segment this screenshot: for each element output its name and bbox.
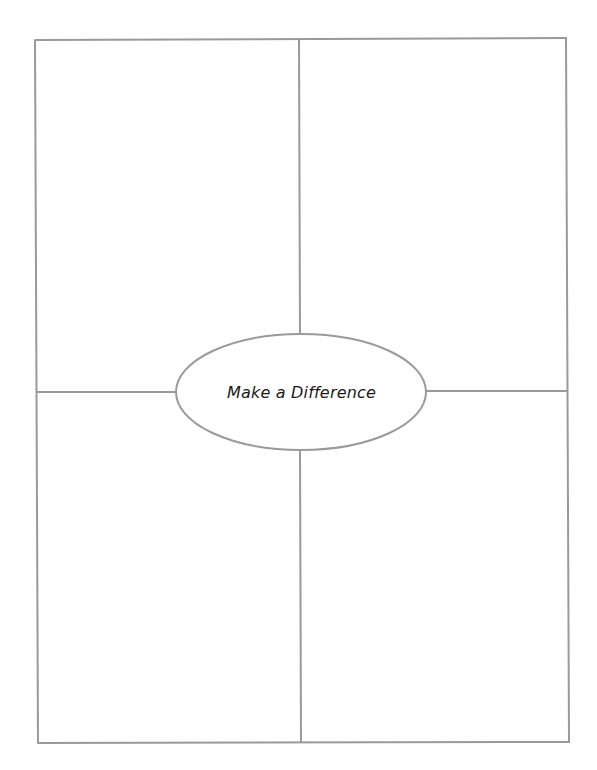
quadrant-top-right[interactable] — [301, 40, 566, 330]
quadrant-bottom-left[interactable] — [39, 455, 299, 741]
border-bottom — [38, 742, 569, 743]
quadrant-top-left[interactable] — [37, 41, 299, 331]
divider-vertical-bottom — [300, 450, 301, 742]
divider-vertical-top — [299, 39, 300, 334]
center-label: Make a Difference — [176, 334, 427, 450]
quadrant-bottom-right[interactable] — [302, 455, 568, 741]
